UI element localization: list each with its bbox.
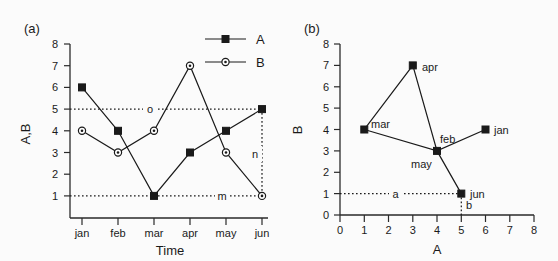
point-label-mar: mar <box>371 118 390 130</box>
panel-b-ytick-2: 2 <box>323 166 329 178</box>
annotation-label-o: o <box>147 103 153 115</box>
panel-a-ytick-5: 5 <box>52 103 58 115</box>
panel-b-ytick-0: 0 <box>323 209 329 221</box>
panel-b-xtick-2: 2 <box>385 224 391 236</box>
panel-b-ytick-6: 6 <box>323 81 329 93</box>
point-label-jan: jan <box>493 124 509 136</box>
panel-b-ytick-1: 1 <box>323 188 329 200</box>
panel-b-ytick-8: 8 <box>323 38 329 50</box>
panel-b-xtick-5: 5 <box>458 224 464 236</box>
panel-b-xtick-8: 8 <box>531 224 537 236</box>
panel-b-ytick-4: 4 <box>323 124 329 136</box>
point-label-jun: jun <box>469 188 485 200</box>
panel-a-xtick-feb: feb <box>110 227 125 239</box>
panel-a-y-axis-title: A,B <box>18 124 33 145</box>
panel-a-xtick-mar: mar <box>145 227 164 239</box>
panel-a-ytick-1: 1 <box>52 190 58 202</box>
point-marker-apr <box>409 62 416 69</box>
panel-a-ytick-6: 6 <box>52 81 58 93</box>
point-label-feb: feb <box>440 133 455 145</box>
panel-b-xtick-1: 1 <box>361 224 367 236</box>
legend-marker-a <box>222 36 229 43</box>
annotation-label-a: a <box>392 188 399 200</box>
panel-a-xtick-may: may <box>216 227 237 239</box>
panel-a-xtick-apr: apr <box>182 227 198 239</box>
panel-b-xtick-7: 7 <box>507 224 513 236</box>
panel-b-label: (b) <box>304 21 320 36</box>
panel-a-x-axis-title: Time <box>156 243 184 258</box>
figure-container: (a) 8 7 6 5 4 3 2 1 A,B <box>0 0 558 261</box>
panel-a-ytick-4: 4 <box>52 125 58 137</box>
panel-a-label: (a) <box>24 21 40 36</box>
legend-label-a: A <box>256 32 265 47</box>
panel-b-y-axis-title: B <box>290 126 305 135</box>
annotation-label-b: b <box>466 199 472 211</box>
point-marker-feb-may <box>434 147 441 154</box>
panel-a-xtick-jan: jan <box>74 227 90 239</box>
point-label-apr: apr <box>422 61 438 73</box>
panel-b-ytick-5: 5 <box>323 102 329 114</box>
panel-b-xtick-4: 4 <box>434 224 440 236</box>
panel-b-xtick-0: 0 <box>337 224 343 236</box>
annotation-label-n: n <box>252 148 258 160</box>
panel-a-ytick-7: 7 <box>52 60 58 72</box>
panel-a-ytick-3: 3 <box>52 147 58 159</box>
point-marker-jun <box>458 190 465 197</box>
panel-b-xtick-6: 6 <box>482 224 488 236</box>
panel-b-x-axis-title: A <box>433 242 442 257</box>
point-marker-jan <box>482 126 489 133</box>
panel-b-xtick-3: 3 <box>410 224 416 236</box>
panel-b-ytick-7: 7 <box>323 59 329 71</box>
annotation-label-m: m <box>217 190 226 202</box>
panel-a-ytick-8: 8 <box>52 38 58 50</box>
point-label-may: may <box>411 158 432 170</box>
figure-svg: (a) 8 7 6 5 4 3 2 1 A,B <box>0 0 558 261</box>
legend-label-b: B <box>256 55 265 70</box>
panel-b-ytick-3: 3 <box>323 145 329 157</box>
panel-a-xtick-jun: jun <box>254 227 270 239</box>
panel-a-ytick-2: 2 <box>52 168 58 180</box>
point-marker-mar <box>361 126 368 133</box>
